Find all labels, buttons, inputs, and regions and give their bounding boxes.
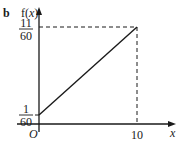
reference-lines [39, 27, 137, 124]
y-axis-label-close: ) [34, 6, 38, 20]
pdf-graph: b f(x) 11 60 1 60 O 10 x [0, 0, 183, 143]
y-tick-label-11-60: 11 60 [19, 16, 33, 43]
x-axis-label: x [169, 126, 176, 140]
part-label: b [3, 6, 10, 20]
function-line [39, 27, 137, 115]
origin-label: O [29, 127, 38, 141]
fraction-denominator: 60 [20, 29, 32, 43]
fraction-numerator: 1 [23, 102, 29, 116]
x-tick-label-10: 10 [131, 128, 143, 142]
y-tick-label-1-60: 1 60 [19, 102, 33, 129]
fraction-numerator: 11 [20, 16, 32, 30]
